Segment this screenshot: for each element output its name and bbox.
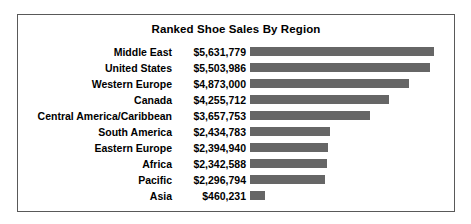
chart-row: Eastern Europe$2,394,940 (18, 140, 454, 156)
row-bar-track (250, 156, 454, 172)
row-bar-track (250, 108, 454, 124)
row-category-label: Central America/Caribbean (18, 108, 178, 124)
row-value-label: $5,631,779 (178, 44, 250, 60)
chart-row: South America$2,434,783 (18, 124, 454, 140)
row-bar (250, 63, 430, 72)
chart-row: Pacific$2,296,794 (18, 172, 454, 188)
row-bar (250, 47, 434, 56)
chart-title: Ranked Shoe Sales By Region (18, 23, 454, 35)
row-value-label: $4,873,000 (178, 76, 250, 92)
row-category-label: Eastern Europe (18, 140, 178, 156)
row-category-label: Middle East (18, 44, 178, 60)
row-category-label: Africa (18, 156, 178, 172)
chart-row: Central America/Caribbean$3,657,753 (18, 108, 454, 124)
row-bar (250, 143, 328, 152)
chart-row: United States$5,503,986 (18, 60, 454, 76)
chart-frame: Ranked Shoe Sales By Region Middle East$… (17, 14, 455, 212)
row-category-label: Canada (18, 92, 178, 108)
row-bar (250, 95, 389, 104)
row-bar (250, 111, 370, 120)
row-bar (250, 159, 327, 168)
row-bar-track (250, 140, 454, 156)
row-bar (250, 175, 325, 184)
row-bar-track (250, 44, 454, 60)
row-value-label: $2,394,940 (178, 140, 250, 156)
row-bar-track (250, 60, 454, 76)
chart-row: Canada$4,255,712 (18, 92, 454, 108)
row-category-label: Pacific (18, 172, 178, 188)
chart-row: Asia$460,231 (18, 188, 454, 204)
row-bar-track (250, 76, 454, 92)
chart-row: Africa$2,342,588 (18, 156, 454, 172)
row-category-label: United States (18, 60, 178, 76)
chart-row: Western Europe$4,873,000 (18, 76, 454, 92)
row-bar-track (250, 172, 454, 188)
row-value-label: $460,231 (178, 188, 250, 204)
row-value-label: $2,342,588 (178, 156, 250, 172)
row-bar-track (250, 124, 454, 140)
row-bar-track (250, 92, 454, 108)
chart-rows: Middle East$5,631,779United States$5,503… (18, 44, 454, 204)
row-value-label: $2,296,794 (178, 172, 250, 188)
row-value-label: $5,503,986 (178, 60, 250, 76)
row-value-label: $4,255,712 (178, 92, 250, 108)
chart-row: Middle East$5,631,779 (18, 44, 454, 60)
row-bar (250, 127, 330, 136)
row-bar (250, 79, 409, 88)
row-category-label: Western Europe (18, 76, 178, 92)
row-value-label: $2,434,783 (178, 124, 250, 140)
row-value-label: $3,657,753 (178, 108, 250, 124)
row-category-label: South America (18, 124, 178, 140)
row-category-label: Asia (18, 188, 178, 204)
row-bar-track (250, 188, 454, 204)
row-bar (250, 191, 265, 200)
